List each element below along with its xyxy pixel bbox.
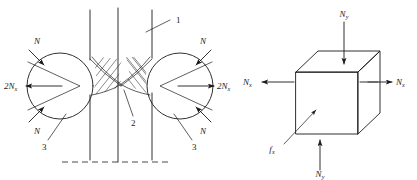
label-nx-left: Nx [242, 77, 252, 88]
label-ny-top: Ny [339, 9, 349, 20]
figure-canvas: N N N N 2Nx 2Nx 1 2 3 3 [0, 0, 417, 180]
label-n-lower-right: N [199, 126, 207, 136]
label-2nx-left: 2Nx [4, 81, 18, 92]
label-n-lower-left: N [33, 126, 41, 136]
label-callout-2: 2 [131, 118, 136, 128]
callout-leader-1 [146, 20, 170, 32]
left-roller-assembly: N N N N 2Nx 2Nx 1 2 3 3 [4, 8, 231, 162]
label-n-upper-right: N [199, 36, 207, 46]
force-arrow-fx [284, 110, 316, 144]
label-2nx-right: 2Nx [217, 81, 231, 92]
label-ny-bottom: Ny [315, 169, 325, 180]
cube-front-face [296, 72, 358, 134]
label-nx-right: Nx [395, 77, 405, 88]
label-callout-3-right: 3 [192, 142, 197, 152]
cube-top-face [296, 51, 380, 72]
label-fx: fx [269, 144, 275, 155]
callout-leader-2 [124, 90, 133, 116]
cube-right-face [358, 51, 380, 134]
label-n-upper-left: N [33, 36, 41, 46]
engineering-figure: N N N N 2Nx 2Nx 1 2 3 3 [0, 0, 417, 180]
label-callout-1: 1 [176, 15, 181, 25]
label-callout-3-left: 3 [42, 142, 47, 152]
strip-lines [90, 8, 152, 162]
right-cube-assembly: Ny Ny Nx Nx fx [242, 9, 405, 180]
